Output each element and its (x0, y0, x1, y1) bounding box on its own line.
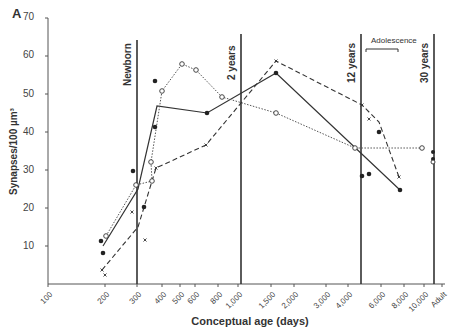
axes (45, 18, 445, 287)
reference-lines (137, 34, 434, 284)
plot-area (0, 0, 457, 333)
dotted-series-line (106, 64, 422, 236)
open-circle-markers (104, 62, 435, 239)
adolescence-bracket (366, 49, 398, 52)
solid-series-line (103, 73, 400, 246)
